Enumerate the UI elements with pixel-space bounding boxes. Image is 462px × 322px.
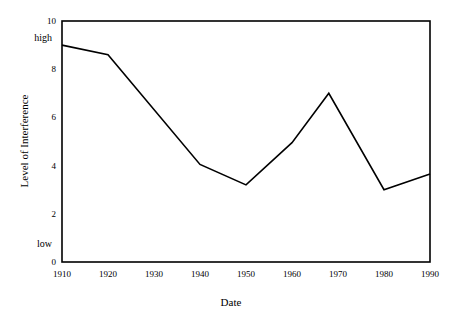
y-tick-label: 0 — [40, 258, 56, 267]
y-tick-label: 8 — [40, 65, 56, 74]
y-tick-label: 6 — [40, 113, 56, 122]
y-axis-title: Level of Interference — [18, 95, 30, 188]
x-tick-label: 1910 — [53, 270, 71, 279]
x-tick-label: 1960 — [283, 270, 301, 279]
x-tick-label: 1980 — [375, 270, 393, 279]
x-axis-title: Date — [0, 296, 462, 308]
chart-figure: 0246810 19101920193019401950196019701980… — [0, 0, 462, 322]
y-tick-label: 2 — [40, 209, 56, 218]
x-tick-label: 1930 — [145, 270, 163, 279]
x-tick-label: 1920 — [99, 270, 117, 279]
y-tick-label: 10 — [40, 17, 56, 26]
x-tick-label: 1950 — [237, 270, 255, 279]
y-tick-label: 4 — [40, 161, 56, 170]
y-axis-title-wrapper: Level of Interference — [14, 0, 34, 282]
x-tick-label: 1970 — [329, 270, 347, 279]
x-tick-label: 1940 — [191, 270, 209, 279]
x-tick-label: 1990 — [421, 270, 439, 279]
